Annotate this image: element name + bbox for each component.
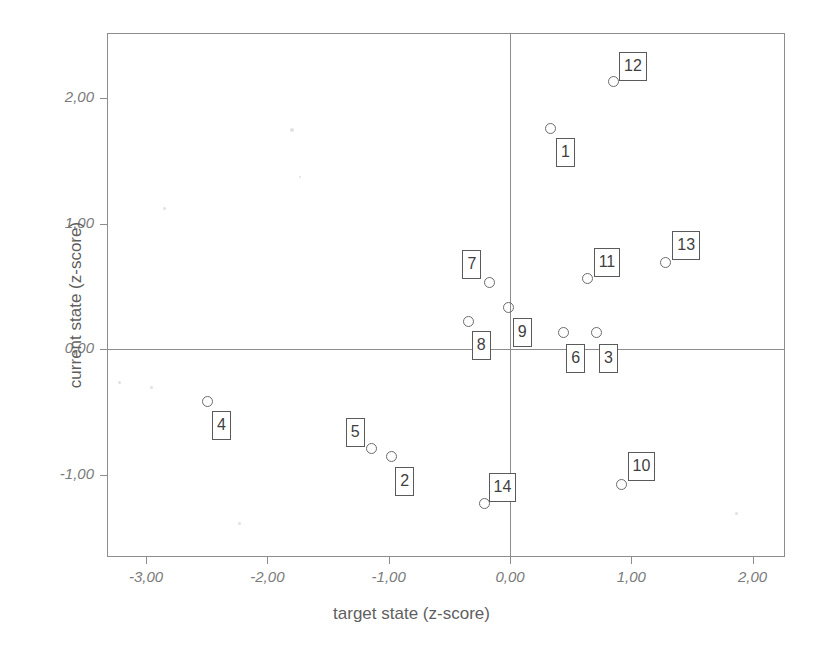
y-tick-mark — [100, 349, 107, 350]
x-tick-label: 2,00 — [713, 568, 793, 585]
data-point-label: 14 — [489, 473, 517, 502]
x-tick-mark — [753, 557, 754, 564]
y-tick-mark — [100, 475, 107, 476]
data-point-label: 8 — [472, 331, 491, 360]
x-tick-label: -1,00 — [349, 568, 429, 585]
data-point-label: 2 — [395, 467, 414, 496]
x-tick-label: -2,00 — [227, 568, 307, 585]
x-tick-mark — [389, 557, 390, 564]
x-tick-mark — [631, 557, 632, 564]
data-point-label: 11 — [594, 248, 621, 277]
data-point-label: 4 — [212, 411, 231, 440]
x-axis-title: target state (z-score) — [0, 604, 823, 624]
data-point-marker — [366, 443, 377, 454]
x-tick-mark — [267, 557, 268, 564]
scan-artifact-speck — [163, 207, 166, 210]
y-tick-mark — [100, 224, 107, 225]
data-point-label: 5 — [346, 418, 365, 447]
scan-artifact-speck — [735, 512, 738, 515]
plot-frame — [107, 33, 785, 557]
y-tick-mark — [100, 98, 107, 99]
x-tick-mark — [146, 557, 147, 564]
zero-line-horizontal — [107, 349, 785, 350]
data-point-marker — [591, 327, 602, 338]
data-point-label: 1 — [556, 138, 575, 167]
data-point-marker — [660, 257, 671, 268]
scan-artifact-speck — [290, 128, 294, 132]
scan-artifact-speck — [118, 381, 121, 384]
data-point-label: 6 — [566, 344, 585, 373]
scan-artifact-speck — [238, 522, 241, 525]
scan-artifact-speck — [150, 386, 153, 389]
y-axis-title: current state (z-score) — [66, 43, 86, 567]
data-point-marker — [386, 451, 397, 462]
data-point-label: 7 — [462, 250, 481, 279]
data-point-label: 10 — [628, 452, 656, 481]
data-point-marker — [558, 327, 569, 338]
scatter-chart-figure: -3,00-2,00-1,000,001,002,00 2,001,000,00… — [0, 0, 823, 659]
data-point-label: 12 — [619, 52, 647, 81]
data-point-marker — [608, 76, 619, 87]
x-tick-label: 1,00 — [591, 568, 671, 585]
data-point-label: 13 — [672, 231, 700, 260]
scan-artifact-speck — [299, 176, 301, 178]
data-point-marker — [545, 123, 556, 134]
data-point-label: 9 — [513, 318, 532, 347]
x-tick-label: 0,00 — [470, 568, 550, 585]
data-point-marker — [484, 277, 495, 288]
data-point-label: 3 — [599, 344, 618, 373]
x-tick-mark — [510, 557, 511, 564]
x-tick-label: -3,00 — [106, 568, 186, 585]
